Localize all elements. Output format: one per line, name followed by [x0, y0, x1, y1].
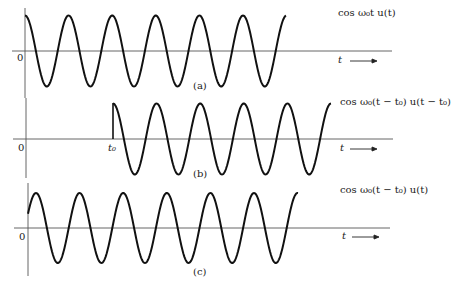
- panel-a-t-label: t: [338, 54, 342, 65]
- panel-b-t-label: t: [340, 142, 344, 153]
- panel-b-tag: (b): [193, 168, 207, 179]
- panel-c-axes: [14, 183, 390, 276]
- panel-b-t0-marker: t₀: [108, 142, 116, 153]
- panel-c-equation: cos ω₀(t − t₀) u(t): [340, 184, 428, 195]
- panel-c-tag: (c): [193, 266, 206, 277]
- panel-c-origin-label: 0: [19, 231, 25, 242]
- panel-b-origin-label: 0: [18, 142, 24, 153]
- panel-b-axes: [13, 98, 393, 178]
- panel-c-t-label: t: [342, 230, 346, 241]
- panel-b-equation: cos ω₀(t − t₀) u(t − t₀): [340, 96, 451, 107]
- panel-a-tag: (a): [193, 80, 207, 91]
- signal-diagram: [0, 0, 455, 286]
- panel-a-equation: cos ω₀t u(t): [338, 7, 396, 18]
- arrow-icons: [350, 59, 379, 239]
- panel-a-origin-label: 0: [17, 52, 23, 63]
